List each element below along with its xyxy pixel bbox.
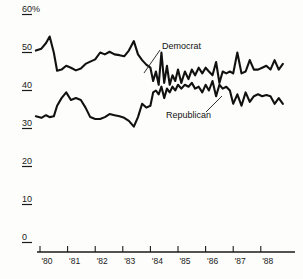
series-label-democrat: Democrat	[162, 41, 201, 51]
series-line-republican	[36, 81, 283, 127]
x-tick-label: '87	[227, 256, 253, 266]
x-tick-label: '86	[200, 256, 226, 266]
series-lines	[36, 37, 283, 127]
x-tick-label: '84	[144, 256, 170, 266]
y-tick-label: 10	[22, 194, 32, 204]
chart-plot-area	[0, 0, 303, 279]
x-tick-label: '83	[117, 256, 143, 266]
x-tick-label: '81	[62, 256, 88, 266]
y-tick-label: 60%	[22, 4, 40, 14]
y-tick-label: 30	[22, 118, 32, 128]
y-tick-label: 40	[22, 80, 32, 90]
poll-line-chart: 60%50403020100 '80'81'82'83'84'85'86'87'…	[0, 0, 303, 279]
leader-line-democrat	[144, 50, 160, 73]
series-label-republican: Republican	[166, 110, 211, 120]
x-tick-label: '80	[34, 256, 60, 266]
series-line-democrat	[36, 37, 283, 85]
x-tick-label: '85	[172, 256, 198, 266]
x-tick-label: '82	[89, 256, 115, 266]
x-axis-tick-marks	[40, 246, 261, 252]
x-tick-label: '88	[255, 256, 281, 266]
y-tick-label: 50	[22, 42, 32, 52]
y-tick-label: 20	[22, 156, 32, 166]
y-tick-label: 0	[22, 232, 27, 242]
